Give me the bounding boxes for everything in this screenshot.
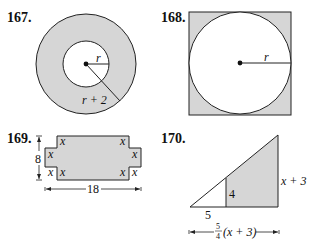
base-expression: (x + 3) [223,225,256,239]
notch-label: x [119,134,126,148]
notch-label: x [119,165,126,179]
fraction-denominator: 4 [216,232,220,241]
outer-radius-label: r + 2 [82,93,107,107]
notch-label: x [47,147,54,161]
small-height-label: 4 [229,187,235,201]
inner-radius-label: r [96,51,101,65]
large-height-label: x + 3 [280,174,306,188]
fraction-numerator: 5 [216,222,220,231]
notch-label: x [47,165,54,179]
figure-168: 168. r [161,10,291,115]
height-label: 8 [35,152,41,166]
notch-label: x [59,165,66,179]
figure-number: 169. [7,131,32,146]
figure-number: 167. [7,10,32,25]
figure-number: 170. [161,131,186,146]
center-dot [238,61,243,66]
figure-number: 168. [161,10,186,25]
figure-170: 170. 4 x + 3 5 5 4 (x + 3) [161,131,306,241]
notch-label: x [131,165,138,179]
notch-label: x [131,147,138,161]
width-label: 18 [87,182,99,196]
notch-label: x [59,134,66,148]
radius-label: r [264,50,269,64]
figure-169: 169. x x x x x x x x 8 18 [7,131,141,196]
figures-canvas: 167. r r + 2 168. r 169. x x x x x x x x [0,0,311,251]
center-dot [84,62,89,67]
small-base-label: 5 [205,208,211,222]
figure-167: 167. r r + 2 [7,10,136,114]
